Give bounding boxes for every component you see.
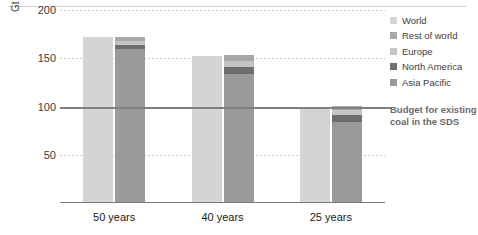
- y-axis-ticks: 200 150 100 50: [0, 0, 56, 235]
- plot-area: [60, 10, 385, 203]
- legend-label-north-america: North America: [402, 61, 462, 72]
- y-tick-100: 100: [16, 101, 56, 113]
- bar-segment-north-america-1: [224, 67, 254, 74]
- y-tick-200: 200: [16, 4, 56, 16]
- bar-segment-europe-1: [224, 61, 254, 67]
- legend: World Rest of world Europe North America…: [390, 14, 475, 92]
- legend-label-world: World: [402, 15, 427, 26]
- bar-segment-rest-of-world-0: [115, 37, 145, 41]
- bar-segment-asia-pacific-0: [115, 49, 145, 203]
- bar-world-1: [192, 56, 222, 203]
- legend-swatch-asia-pacific: [390, 79, 397, 86]
- bar-segment-asia-pacific-2: [332, 122, 362, 203]
- bar-segment-rest-of-world-1: [224, 55, 254, 61]
- legend-item-north-america[interactable]: North America: [390, 61, 475, 73]
- legend-label-europe: Europe: [402, 46, 433, 57]
- y-tick-150: 150: [16, 52, 56, 64]
- legend-label-rest-of-world: Rest of world: [402, 30, 457, 41]
- legend-label-asia-pacific: Asia Pacific: [402, 77, 451, 88]
- x-axis-line: [60, 202, 385, 204]
- x-tick-50-years: 50 years: [93, 211, 135, 223]
- budget-callout-label: Budget for existing coal in the SDS: [390, 104, 478, 128]
- legend-swatch-world: [390, 17, 397, 24]
- bar-segment-europe-0: [115, 41, 145, 45]
- bar-stack-0: [115, 37, 145, 203]
- bar-segment-asia-pacific-1: [224, 74, 254, 203]
- budget-threshold-line: [60, 107, 385, 109]
- legend-item-asia-pacific[interactable]: Asia Pacific: [390, 76, 475, 88]
- legend-swatch-rest-of-world: [390, 32, 397, 39]
- legend-item-europe[interactable]: Europe: [390, 45, 475, 57]
- bar-stack-2: [332, 106, 362, 203]
- top-divider: [8, 6, 467, 7]
- legend-swatch-north-america: [390, 63, 397, 70]
- bar-segment-europe-2: [332, 110, 362, 115]
- bar-world-0: [83, 37, 113, 203]
- legend-item-rest-of-world[interactable]: Rest of world: [390, 30, 475, 42]
- gridline-200: [60, 10, 385, 11]
- bar-segment-north-america-2: [332, 115, 362, 122]
- bar-world-2: [300, 107, 330, 204]
- bar-segment-north-america-0: [115, 45, 145, 49]
- y-tick-50: 50: [16, 149, 56, 161]
- legend-item-world[interactable]: World: [390, 14, 475, 26]
- x-tick-40-years: 40 years: [201, 211, 243, 223]
- legend-swatch-europe: [390, 48, 397, 55]
- x-tick-25-years: 25 years: [310, 211, 352, 223]
- bar-stack-1: [224, 55, 254, 203]
